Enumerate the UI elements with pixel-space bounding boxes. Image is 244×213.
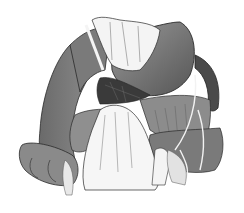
surgical-illustration: [0, 0, 244, 213]
illustration: [0, 0, 244, 213]
